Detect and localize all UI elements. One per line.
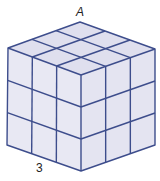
label-a: A [75, 5, 84, 19]
label-edge-length: 3 [36, 161, 43, 175]
cube-diagram: A 3 [0, 0, 160, 181]
